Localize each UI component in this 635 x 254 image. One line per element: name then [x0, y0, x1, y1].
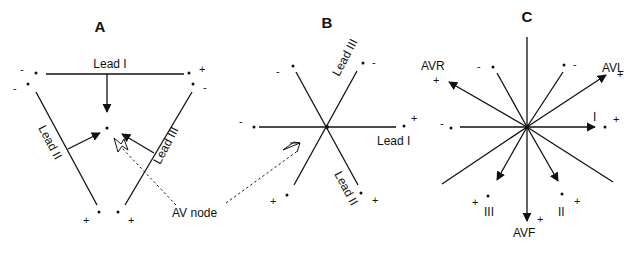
- sign: +: [617, 68, 623, 80]
- lead-iii-label: Lead III: [150, 124, 181, 166]
- panel-b: B Lead I Lead II Lead III - + - - + +: [239, 14, 417, 208]
- av-node-label: AV node: [172, 206, 217, 220]
- sign: -: [477, 60, 481, 72]
- electrode-dot: [27, 83, 30, 86]
- lead-ii-label: Lead II: [35, 123, 65, 162]
- electrode-dot: [253, 126, 256, 129]
- sign: -: [276, 65, 280, 77]
- sign: -: [20, 63, 24, 75]
- electrode-dot: [604, 126, 607, 129]
- lead-ii-label: II: [558, 205, 565, 219]
- electrode-dot: [192, 83, 195, 86]
- sign: +: [472, 196, 478, 208]
- electrode-dot: [362, 62, 365, 65]
- electrode-dot: [360, 192, 363, 195]
- electrode-dot: [117, 211, 120, 214]
- sign: +: [613, 113, 619, 125]
- electrode-dot: [492, 66, 495, 69]
- avr-vector-arrow: [449, 82, 527, 127]
- electrode-dot: [35, 72, 38, 75]
- center-dot: [525, 125, 529, 129]
- lead-ii-line: [36, 92, 97, 205]
- sign: -: [372, 56, 376, 68]
- panel-a: A Lead I Lead II Lead III - - + - + +: [13, 18, 207, 226]
- lead-i-label: Lead I: [93, 57, 126, 71]
- avf-label: AVF: [513, 226, 535, 240]
- lead-iii-vector-arrow: [122, 134, 154, 153]
- panel-b-title: B: [322, 14, 333, 31]
- panel-a-title: A: [95, 18, 106, 35]
- electrode-dot: [188, 72, 191, 75]
- lead-ii-vector-arrow: [68, 133, 100, 149]
- electrode-dot: [561, 193, 564, 196]
- avl-negative: [442, 127, 527, 184]
- sign: -: [239, 115, 243, 127]
- sign: +: [411, 112, 417, 124]
- sign: -: [440, 117, 444, 129]
- sign: +: [433, 74, 439, 86]
- electrode-dot: [563, 64, 566, 67]
- lead-iii-label: III: [484, 205, 494, 219]
- center-dot: [105, 126, 108, 129]
- avr-label: AVR: [421, 59, 445, 73]
- electrode-dot: [292, 65, 295, 68]
- lead-ii-label: Lead II: [331, 169, 361, 208]
- einthoven-diagram: A Lead I Lead II Lead III - - + - + + AV…: [0, 0, 635, 254]
- sign: -: [573, 58, 577, 70]
- electrode-dot: [98, 211, 101, 214]
- sign: +: [83, 214, 89, 226]
- sign: +: [128, 214, 134, 226]
- lead-i-label: I: [593, 110, 596, 124]
- sign: -: [203, 81, 207, 93]
- sign: +: [270, 195, 276, 207]
- avr-negative: [527, 127, 613, 182]
- electrode-dot: [403, 125, 406, 128]
- av-node-arrow-icon: [283, 142, 300, 152]
- sign: -: [13, 82, 17, 94]
- lead-iii-vector-arrow: [497, 127, 527, 180]
- electrode-dot: [286, 194, 289, 197]
- center-dot: [325, 125, 329, 129]
- panel-c-title: C: [522, 8, 533, 25]
- sign: +: [574, 195, 580, 207]
- sign: +: [537, 213, 543, 225]
- panel-c: C AVR AVL I III AVF II + + + + + + -: [421, 8, 624, 240]
- electrode-dot: [450, 127, 453, 130]
- sign: +: [199, 63, 205, 75]
- lead-ii-vector-arrow: [527, 127, 558, 181]
- sign: +: [372, 194, 378, 206]
- lead-iii-negative: [527, 72, 563, 127]
- lead-i-label: Lead I: [377, 134, 410, 148]
- electrode-dot: [487, 195, 490, 198]
- av-node-arrow-icon: [114, 138, 128, 152]
